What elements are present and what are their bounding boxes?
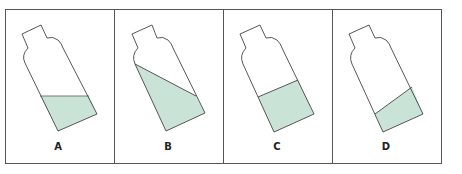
label-d: D (382, 141, 390, 152)
panel-a: A (22, 25, 97, 152)
label-b: B (164, 141, 172, 152)
liquid-a (40, 96, 97, 131)
bottle-tilt-figure: A B C D (0, 0, 462, 174)
liquid-c (258, 80, 314, 132)
label-c: C (273, 141, 280, 152)
panel-b: B (132, 25, 205, 152)
panel-c: C (240, 25, 314, 152)
liquid-b (135, 64, 205, 131)
label-a: A (54, 141, 62, 152)
panel-frame (6, 10, 442, 164)
panel-d: D (349, 25, 423, 152)
